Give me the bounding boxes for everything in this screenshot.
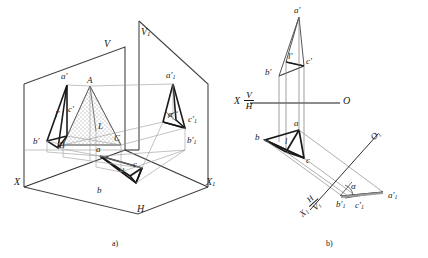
- label-ortho-c: c: [306, 156, 310, 165]
- label-ortho-l: l: [285, 138, 287, 146]
- front-projection-ortho-emph: [286, 62, 304, 66]
- pictorial-view: [24, 21, 208, 214]
- label-angle-alpha-ortho: α: [351, 182, 356, 191]
- label-plane-v-ortho: V: [246, 90, 252, 100]
- label-point-l-prime: l': [55, 110, 59, 119]
- label-point-b-prime: b': [33, 137, 39, 146]
- label-point-B: B: [59, 141, 65, 150]
- label-point-c-prime: c': [68, 105, 74, 114]
- label-ortho-b-prime: b': [265, 68, 271, 77]
- auxiliary-projection-lines: [265, 130, 383, 198]
- label-ortho-b1-prime: b'1: [336, 200, 346, 209]
- label-ortho-axis-x: X: [234, 96, 240, 106]
- front-projection-right: [163, 84, 185, 128]
- label-point-l: l: [122, 168, 124, 176]
- label-point-L: L: [98, 122, 103, 131]
- label-point-b1-prime: b'1: [187, 136, 197, 145]
- label-point-a-prime: a': [61, 72, 67, 81]
- caption-a: a): [112, 239, 118, 248]
- label-point-a: a: [96, 145, 101, 154]
- label-ortho-c1-prime: c'1: [355, 201, 364, 210]
- front-projection-ortho: [279, 17, 304, 76]
- label-point-c1-prime: c'1: [188, 115, 197, 124]
- label-point-a1-prime: a'1: [166, 71, 176, 80]
- label-ortho-plane-vh: V H: [244, 91, 254, 110]
- caption-b: b): [326, 239, 333, 248]
- label-ortho-a-prime: a': [294, 6, 300, 15]
- label-axis-x: X: [14, 177, 20, 187]
- label-plane-v1: V1: [141, 27, 151, 38]
- label-point-C: C: [114, 134, 120, 143]
- label-axis-x1: X1: [206, 177, 216, 188]
- label-ortho-l-prime: l': [288, 52, 292, 61]
- plane-h-outline: [24, 187, 208, 214]
- label-ortho-axis-o: O: [343, 96, 350, 106]
- label-ortho-a1-prime: a'1: [388, 191, 398, 200]
- label-plane-v: V: [104, 39, 110, 49]
- label-plane-h: H: [137, 204, 144, 214]
- label-angle-alpha-pictorial: α: [168, 110, 173, 119]
- orthographic-view: [250, 17, 383, 210]
- label-plane-h-ortho: H: [246, 101, 253, 111]
- label-ortho-c-prime: c': [306, 57, 312, 66]
- label-ortho-b: b: [255, 133, 260, 142]
- label-point-A: A: [87, 76, 93, 85]
- descriptive-geometry-figure: [0, 0, 428, 258]
- plane-v-outline: [24, 47, 125, 187]
- label-point-c: c: [133, 160, 137, 169]
- label-point-b: b: [97, 186, 102, 195]
- label-ortho-a: a: [294, 119, 299, 128]
